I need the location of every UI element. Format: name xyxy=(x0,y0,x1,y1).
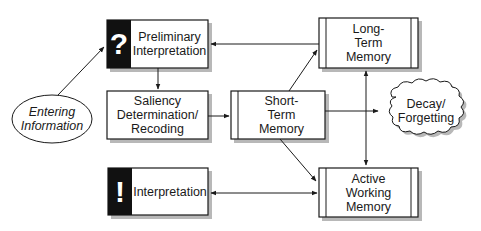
preliminary-interpretation-label: Preliminary Interpretation xyxy=(131,20,208,68)
long-term-memory-label: Long- Term Memory xyxy=(326,18,411,68)
arrow-shortterm-to-longterm xyxy=(289,50,317,91)
arrow-shortterm-to-activeworking xyxy=(280,139,316,181)
decay-forgetting-label: Decay/ Forgetting xyxy=(386,89,466,133)
arrow-entering-to-preliminary xyxy=(58,47,104,95)
exclamation-mark-glyph: ! xyxy=(108,168,132,215)
entering-information-label: Entering Information xyxy=(12,95,92,143)
interpretation-label: Interpretation xyxy=(132,168,208,215)
active-working-memory-label: Active Working Memory xyxy=(326,168,411,217)
question-mark-glyph: ? xyxy=(107,20,131,68)
saliency-label: Saliency Determination/ Recoding xyxy=(107,91,208,139)
short-term-memory-label: Short- Term Memory xyxy=(238,91,325,139)
